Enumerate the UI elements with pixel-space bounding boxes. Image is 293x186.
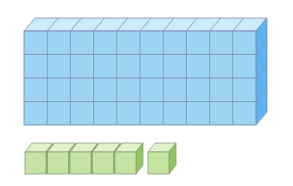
unit-cubes bbox=[25, 143, 176, 174]
unit-cube-separate bbox=[148, 143, 176, 174]
base-ten-cubes-diagram bbox=[0, 0, 293, 186]
tens-block-4x10 bbox=[24, 18, 267, 125]
unit-cube bbox=[115, 143, 143, 174]
